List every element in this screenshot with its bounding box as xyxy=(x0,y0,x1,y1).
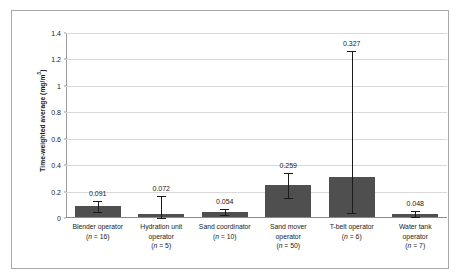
gridline xyxy=(66,192,447,193)
y-axis-tick xyxy=(64,112,66,113)
x-axis-line xyxy=(66,217,447,218)
error-bar-cap-upper xyxy=(284,173,293,174)
y-axis-tick-label: 1 xyxy=(57,82,61,89)
x-axis-category-label: Blender operator(n = 16) xyxy=(66,222,130,241)
y-axis-tick-label: 0.8 xyxy=(51,109,61,116)
x-axis-category-line: (n = 10) xyxy=(193,232,257,242)
y-axis-tick xyxy=(64,85,66,86)
error-bar-cap-upper xyxy=(157,196,166,197)
y-axis-title-text: Time-weighted average (mg/m xyxy=(39,75,46,172)
error-bar-cap-upper xyxy=(347,51,356,52)
gridline xyxy=(66,86,447,87)
x-axis-category-line: operator xyxy=(130,232,194,242)
x-axis-category-line: Sand coordinator xyxy=(193,222,257,232)
error-bar-cap-lower xyxy=(220,215,229,216)
x-axis-category-line: Water tank xyxy=(384,222,448,232)
x-axis-category-label: Sand coordinator(n = 10) xyxy=(193,222,257,241)
x-axis-category-line: (n = 6) xyxy=(320,232,384,242)
error-bar-cap-upper xyxy=(220,209,229,210)
gridline xyxy=(66,59,447,60)
x-axis-category-line: (n = 7) xyxy=(384,241,448,251)
y-axis-tick-label: 1.2 xyxy=(51,56,61,63)
x-axis-category-label: Hydration unitoperator(n = 5) xyxy=(130,222,194,251)
error-bar-cap-lower xyxy=(411,217,420,218)
error-bar-line xyxy=(98,201,99,211)
y-axis-line xyxy=(66,33,67,218)
gridline xyxy=(66,33,447,34)
gridline xyxy=(66,165,447,166)
x-axis-category-line: Hydration unit xyxy=(130,222,194,232)
y-axis-tick xyxy=(64,165,66,166)
x-axis-category-line: operator xyxy=(257,232,321,242)
y-axis-title: Time-weighted average (mg/m3) xyxy=(36,21,45,221)
x-axis-category-label: Water tankoperator(n = 7) xyxy=(384,222,448,251)
y-axis-tick-label: 0.4 xyxy=(51,162,61,169)
bar-value-label: 0.048 xyxy=(406,200,424,207)
bar-value-label: 0.259 xyxy=(279,162,297,169)
error-bar-cap-upper xyxy=(93,201,102,202)
y-axis-tick xyxy=(64,218,66,219)
x-axis-category-line: (n = 5) xyxy=(130,241,194,251)
bar-value-label: 0.091 xyxy=(89,190,107,197)
y-axis-tick xyxy=(64,59,66,60)
x-axis-category-line: Blender operator xyxy=(66,222,130,232)
y-axis-tick xyxy=(64,191,66,192)
y-axis-tick-label: 1.4 xyxy=(51,30,61,37)
y-axis-tick xyxy=(64,138,66,139)
error-bar-cap-lower xyxy=(347,213,356,214)
y-axis-tick-label: 0.6 xyxy=(51,135,61,142)
error-bar-line xyxy=(288,173,289,198)
gridline xyxy=(66,139,447,140)
x-axis-category-line: Sand mover xyxy=(257,222,321,232)
bar-value-label: 0.072 xyxy=(152,185,170,192)
y-axis-title-tail: ) xyxy=(39,69,46,71)
x-axis-category-label: Sand moveroperator(n = 50) xyxy=(257,222,321,251)
x-axis-category-line: (n = 16) xyxy=(66,232,130,242)
x-axis-category-line: (n = 50) xyxy=(257,241,321,251)
error-bar-cap-upper xyxy=(411,211,420,212)
x-axis-category-labels: Blender operator(n = 16)Hydration unitop… xyxy=(66,222,447,278)
y-axis-tick-label: 0 xyxy=(57,215,61,222)
chart-frame: Time-weighted average (mg/m3) 00.20.40.6… xyxy=(11,10,449,269)
y-axis-tick xyxy=(64,33,66,34)
bar-value-label: 0.054 xyxy=(216,198,234,205)
x-axis-category-line: operator xyxy=(384,232,448,242)
error-bar-cap-lower xyxy=(93,212,102,213)
error-bar-cap-lower xyxy=(157,218,166,219)
x-axis-category-label: T-belt operator(n = 6) xyxy=(320,222,384,241)
bar-value-label: 0.327 xyxy=(343,40,361,47)
gridline xyxy=(66,112,447,113)
chart-figure: Time-weighted average (mg/m3) 00.20.40.6… xyxy=(0,0,461,279)
y-axis-tick-label: 0.2 xyxy=(51,188,61,195)
error-bar-line xyxy=(161,196,162,218)
y-axis-title-exponent: 3 xyxy=(36,72,42,75)
x-axis-category-line: T-belt operator xyxy=(320,222,384,232)
error-bar-cap-lower xyxy=(284,198,293,199)
error-bar-line xyxy=(352,51,353,214)
plot-area: 00.20.40.60.811.21.40.0910.0720.0540.259… xyxy=(66,33,447,218)
